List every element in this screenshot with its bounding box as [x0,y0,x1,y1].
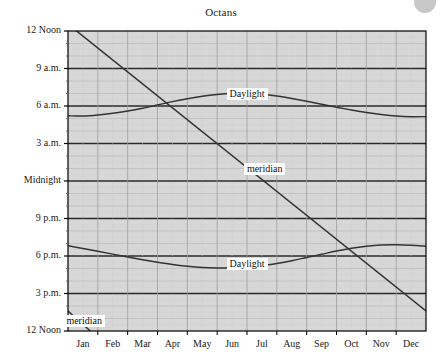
y-axis-tick-label: 3 a.m. [36,137,61,148]
chart-annotation-label: Daylight [227,258,268,270]
y-axis-tick-label: 9 p.m. [36,212,61,223]
chart-annotation-label: meridian [63,315,105,327]
y-axis-tick-label: 6 p.m. [36,249,61,260]
y-axis-tick-label: 3 p.m. [36,287,61,298]
y-axis-tick-label: 12 Noon [26,324,61,335]
chart-plot-area [0,0,442,363]
chart-annotation-label: meridian [244,163,286,175]
x-axis-tick-label: Dec [391,338,431,349]
chart-annotation-label: Daylight [227,88,268,100]
y-axis-tick-label: Midnight [24,174,61,185]
chart-container: Octans 12 Noon9 a.m.6 a.m.3 a.m.Midnight… [0,0,442,363]
y-axis-tick-label: 12 Noon [26,24,61,35]
y-axis-tick-label: 9 a.m. [36,62,61,73]
y-axis-tick-label: 6 a.m. [36,99,61,110]
